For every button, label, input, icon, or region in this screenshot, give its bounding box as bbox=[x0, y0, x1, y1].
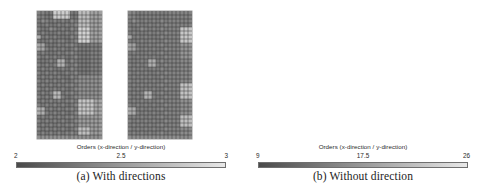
figure-root: Orders (x-direction / y-direction) 2 2.5… bbox=[0, 0, 484, 193]
panel-b-colorbar-group: 9 17.5 26 bbox=[242, 152, 484, 170]
panel-a-axis-label: Orders (x-direction / y-direction) bbox=[0, 143, 242, 150]
panel-a-colorbar-ticks: 2 2.5 3 bbox=[0, 152, 242, 161]
panel-b-colorbar bbox=[258, 162, 468, 168]
panel-b-tick-mid: 17.5 bbox=[357, 152, 369, 159]
panel-a-tick-max: 3 bbox=[224, 152, 228, 159]
panel-b-axis-label: Orders (x-direction / y-direction) bbox=[242, 143, 484, 150]
panel-a-colorbar-group: 2 2.5 3 bbox=[0, 152, 242, 170]
panel-b-grids bbox=[242, 0, 484, 145]
panel-b-colorbar-ticks: 9 17.5 26 bbox=[242, 152, 484, 161]
panel-a-tick-min: 2 bbox=[14, 152, 18, 159]
panel-a-colorbar bbox=[16, 162, 226, 168]
panel-a-tick-mid: 2.5 bbox=[117, 152, 126, 159]
panel-a-grids bbox=[0, 0, 242, 145]
panel-b: Orders (x-direction / y-direction) 9 17.… bbox=[242, 0, 484, 193]
panel-a-caption: (a) With directions bbox=[0, 170, 242, 182]
panel-a-grid-left bbox=[37, 11, 102, 139]
panel-b-tick-max: 26 bbox=[463, 152, 470, 159]
panel-b-caption: (b) Without direction bbox=[242, 170, 484, 182]
panel-a: Orders (x-direction / y-direction) 2 2.5… bbox=[0, 0, 242, 193]
panel-a-grid-right bbox=[128, 11, 192, 139]
panel-b-tick-min: 9 bbox=[256, 152, 260, 159]
